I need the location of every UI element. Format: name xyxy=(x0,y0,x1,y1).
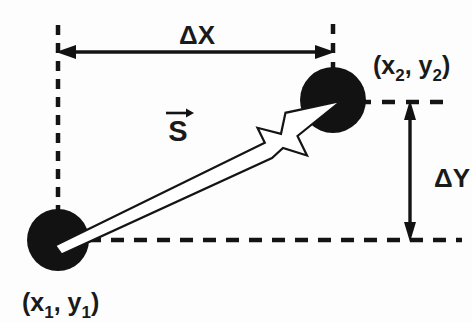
point-1-coordinate-label: (x1, y1) xyxy=(22,288,99,322)
displacement-vector-arrow xyxy=(55,101,341,255)
point-1-paren-open: (x xyxy=(22,288,44,316)
point-2-coordinate-label: (x2, y2) xyxy=(373,51,450,85)
point-2-paren-close: ) xyxy=(442,51,450,79)
point-2-comma-y: , y xyxy=(405,51,433,79)
delta-y-label: ΔY xyxy=(434,163,470,193)
delta-y-measurement xyxy=(404,100,416,242)
vector-s-label: S xyxy=(168,115,187,147)
displacement-vector-diagram: ΔX ΔY S (x2, y2) (x1, y1) xyxy=(0,0,472,322)
point-1-subscript-y: 1 xyxy=(82,303,91,322)
point-2-subscript-x: 2 xyxy=(395,66,404,85)
delta-x-label: ΔX xyxy=(179,20,216,50)
diagram-canvas: ΔX ΔY S (x2, y2) (x1, y1) xyxy=(0,0,472,322)
point-1-subscript-x: 1 xyxy=(44,303,53,322)
point-2-paren-open: (x xyxy=(373,51,395,79)
point-1-paren-close: ) xyxy=(91,288,99,316)
point-2-subscript-y: 2 xyxy=(433,66,442,85)
point-1-comma-y: , y xyxy=(54,288,82,316)
